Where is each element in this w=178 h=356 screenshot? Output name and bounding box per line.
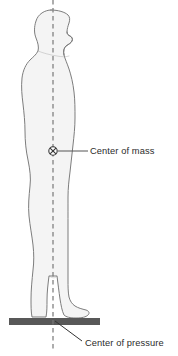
diagram-canvas: Center of mass Center of pressure [0, 0, 178, 356]
biomechanics-diagram: Center of mass Center of pressure [0, 0, 178, 356]
center-of-pressure-label: Center of pressure [85, 338, 164, 348]
diagram-background [0, 0, 178, 356]
center-of-mass-marker [49, 147, 57, 155]
ground-force-plate [9, 318, 100, 325]
center-of-mass-label: Center of mass [90, 146, 155, 156]
